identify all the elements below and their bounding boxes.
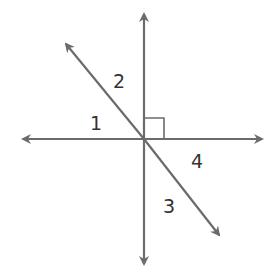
angle-label-3: 3: [163, 195, 175, 217]
diagonal-line-down: [144, 139, 219, 235]
diagonal-line-up: [66, 44, 144, 139]
angle-label-4: 4: [191, 150, 203, 172]
angle-label-1: 1: [90, 112, 102, 134]
right-angle-marker: [145, 118, 164, 139]
angle-label-2: 2: [113, 70, 125, 92]
angle-diagram: 1 2 3 4: [0, 0, 273, 278]
